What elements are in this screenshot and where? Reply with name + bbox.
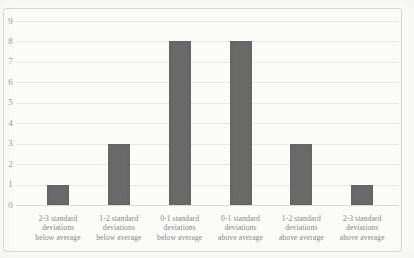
x-category-label: 1-2 standard deviations below average	[86, 214, 152, 242]
gridline	[16, 21, 399, 22]
bar	[47, 185, 69, 205]
gridline	[16, 164, 399, 165]
x-category-label: 1-2 standard deviations above average	[268, 214, 334, 242]
gridline	[16, 123, 399, 124]
y-tick-label: 3	[0, 139, 13, 148]
x-category-label: 0-1 standard deviations below average	[147, 214, 213, 242]
gridline	[16, 144, 399, 145]
y-tick-label: 8	[0, 37, 13, 46]
y-tick-label: 0	[0, 201, 13, 210]
y-tick-label: 6	[0, 78, 13, 87]
gridline	[16, 82, 399, 83]
y-tick-label: 7	[0, 57, 13, 66]
bar	[230, 41, 252, 205]
x-category-label: 2-3 standard deviations above average	[329, 214, 395, 242]
bar	[108, 144, 130, 205]
bar	[351, 185, 373, 205]
y-tick-label: 2	[0, 160, 13, 169]
y-tick-label: 4	[0, 119, 13, 128]
bar	[169, 41, 191, 205]
gridline	[16, 185, 399, 186]
gridline	[16, 41, 399, 42]
x-category-label: 0-1 standard deviations above average	[208, 214, 274, 242]
y-tick-label: 5	[0, 98, 13, 107]
x-category-label: 2-3 standard deviations below average	[25, 214, 91, 242]
y-tick-label: 9	[0, 17, 13, 26]
x-axis-line	[16, 205, 399, 206]
bar-chart: 0123456789 2-3 standard deviations below…	[0, 0, 414, 258]
y-tick-label: 1	[0, 180, 13, 189]
gridline	[16, 103, 399, 104]
gridline	[16, 62, 399, 63]
bar	[290, 144, 312, 205]
